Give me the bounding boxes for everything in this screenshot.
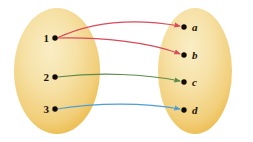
relation-diagram: 1 2 3 a b c d xyxy=(0,0,253,142)
domain-dot-1 xyxy=(52,35,57,40)
domain-dot-3 xyxy=(52,106,57,111)
codomain-label-c: c xyxy=(192,76,197,88)
codomain-label-b: b xyxy=(192,49,198,61)
codomain-dot-c xyxy=(181,79,186,84)
codomain-label-a: a xyxy=(192,21,198,33)
relation-svg: 1 2 3 a b c d xyxy=(0,0,253,142)
codomain-dot-a xyxy=(181,24,186,29)
codomain-dot-b xyxy=(181,52,186,57)
domain-dot-2 xyxy=(52,74,57,79)
domain-label-3: 3 xyxy=(44,103,50,115)
codomain-dot-d xyxy=(181,107,186,112)
codomain-label-d: d xyxy=(192,104,198,116)
domain-label-2: 2 xyxy=(44,71,50,83)
domain-label-1: 1 xyxy=(44,32,50,44)
